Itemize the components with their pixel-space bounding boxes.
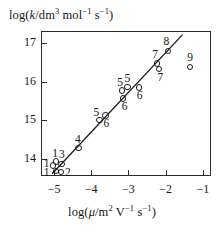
x-tick-label: −5 (41, 182, 67, 197)
data-point-label: 2 (61, 166, 75, 178)
data-point-label: 9 (183, 51, 197, 63)
y-tick-label: 14 (12, 151, 36, 166)
data-point-label: 7 (153, 71, 167, 83)
data-point-label: 5 (120, 72, 134, 84)
scatter-plot-figure: log(k/dm3 mol−1 s−1) 1112345656567789 14… (0, 0, 224, 232)
y-axis-label: log(k/dm3 mol−1 s−1) (9, 8, 113, 23)
plot-area: 1112345656567789 (41, 31, 211, 176)
data-point-label: 6 (99, 117, 113, 129)
data-point-label: 3 (55, 148, 69, 160)
data-point-marker (187, 64, 193, 70)
y-tick-label: 15 (12, 112, 36, 127)
x-tick-label: −4 (78, 182, 104, 197)
data-point-marker (58, 161, 64, 167)
x-tick-label: −3 (115, 182, 141, 197)
data-point-label: 7 (148, 48, 162, 60)
x-axis-label: log(μ/m2 V−1 s−1) (0, 205, 224, 220)
data-points-layer: 1112345656567789 (41, 31, 211, 176)
data-point-label: 6 (118, 100, 132, 112)
data-point-label: 1 (40, 166, 54, 178)
x-tick-label: −2 (153, 182, 179, 197)
y-tick-label: 16 (12, 74, 36, 89)
data-point-marker (165, 48, 171, 54)
data-point-label: 8 (159, 35, 173, 47)
data-point-marker (75, 145, 81, 151)
y-tick-label: 17 (12, 35, 36, 50)
data-point-marker (124, 84, 130, 90)
data-point-label: 4 (71, 133, 85, 145)
x-tick-label: −1 (190, 182, 216, 197)
data-point-label: 6 (133, 89, 147, 101)
